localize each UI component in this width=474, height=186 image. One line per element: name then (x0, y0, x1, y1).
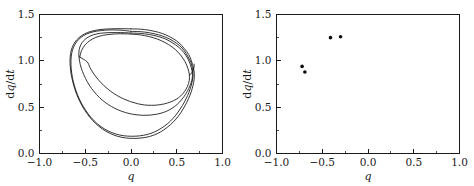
y-tick-label: 1.5 (255, 8, 272, 20)
poincare-section-panel: −1.0−0.50.00.51.00.00.51.01.5qdq/dt (237, 0, 474, 186)
data-layer (300, 35, 342, 74)
plot-frame (277, 15, 460, 154)
poincare-point (300, 65, 304, 69)
figure-container: −1.0−0.50.00.51.00.00.51.01.5qdq/dt −1.0… (0, 0, 474, 186)
y-tick-label: 1.5 (18, 8, 35, 20)
x-tick-label: −0.5 (73, 156, 99, 168)
x-axis-title: q (127, 170, 134, 183)
y-tick-label: 1.0 (18, 54, 35, 66)
x-tick-label: −0.5 (310, 156, 336, 168)
phase-portrait-panel: −1.0−0.50.00.51.00.00.51.01.5qdq/dt (0, 0, 237, 186)
x-tick-label: 0.0 (360, 156, 377, 168)
x-tick-label: 1.0 (451, 156, 468, 168)
svg-text:dq/dt: dq/dt (4, 69, 17, 99)
y-tick-label: 0.0 (18, 147, 35, 159)
poincare-point (329, 36, 333, 40)
x-tick-label: 0.5 (168, 156, 185, 168)
y-tick-label: 0.0 (255, 147, 272, 159)
svg-text:dq/dt: dq/dt (241, 69, 254, 99)
poincare-point (303, 70, 307, 74)
y-axis-title: dq/dt (4, 69, 17, 99)
y-tick-label: 0.5 (255, 101, 272, 113)
data-layer (70, 29, 194, 139)
x-tick-label: 0.5 (405, 156, 422, 168)
x-tick-label: 1.0 (214, 156, 231, 168)
y-axis-title: dq/dt (241, 69, 254, 99)
x-tick-label: 0.0 (123, 156, 140, 168)
poincare-point (339, 35, 343, 39)
phase-portrait-plot: −1.0−0.50.00.51.00.00.51.01.5qdq/dt (0, 0, 237, 186)
x-axis-title: q (364, 170, 371, 183)
poincare-section-plot: −1.0−0.50.00.51.00.00.51.01.5qdq/dt (237, 0, 474, 186)
y-tick-label: 1.0 (255, 54, 272, 66)
plot-frame (40, 15, 223, 154)
y-tick-label: 0.5 (18, 101, 35, 113)
